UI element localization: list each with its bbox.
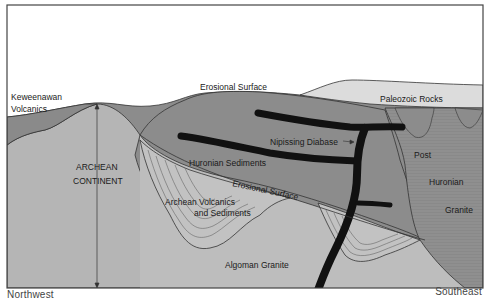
direction-southeast: Southeast: [435, 286, 482, 297]
label-huronian-sediments: Huronian Sediments: [189, 158, 266, 168]
label-post: Post: [414, 150, 432, 160]
label-huronian: Huronian: [429, 177, 464, 187]
label-keweenawan: Keweenawan: [11, 92, 62, 102]
label-erosional-surface-top: Erosional Surface: [200, 82, 267, 92]
label-paleozoic-rocks: Paleozoic Rocks: [380, 94, 443, 104]
label-and-sediments: and Sediments: [194, 208, 251, 218]
geologic-cross-section: Keweenawan Volcanics Erosional Surface P…: [0, 0, 488, 300]
label-granite: Granite: [445, 205, 473, 215]
direction-northwest: Northwest: [7, 289, 54, 300]
label-archean-volcanics: Archean Volcanics: [165, 197, 235, 207]
label-archean: ARCHEAN: [76, 162, 118, 172]
label-nipissing-diabase: Nipissing Diabase: [270, 137, 338, 147]
label-continent: CONTINENT: [73, 176, 123, 186]
label-algoman-granite: Algoman Granite: [225, 260, 289, 270]
label-volcanics: Volcanics: [11, 104, 47, 114]
